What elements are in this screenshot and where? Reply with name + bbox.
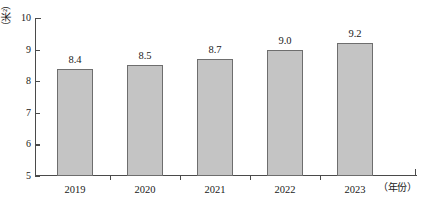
x-axis-category-label: 2023 [333,185,377,196]
y-axis-tick-label: 10 [21,13,31,23]
y-axis-tick-mark [35,144,40,145]
x-axis-category-label: 2021 [193,185,237,196]
x-axis-tick-mark [320,175,321,180]
y-axis-tick-label: 6 [26,139,31,149]
x-axis-title: （年份） [378,183,417,193]
bar-value-label: 9.0 [265,36,305,47]
x-axis-category-label: 2022 [263,185,307,196]
y-axis-tick-mark [35,50,40,51]
plot-area: 1098765 8.48.58.79.09.2 2019202020212022… [35,18,417,176]
y-axis-tick-label: 8 [26,76,31,86]
bar [57,69,93,176]
y-axis-line [35,18,36,176]
x-axis-category-label: 2020 [123,185,167,196]
y-axis-tick-label: 5 [26,171,31,181]
x-axis-tick-mark [110,175,111,180]
x-axis-tick-mark [180,175,181,180]
x-axis-category-label: 2019 [53,185,97,196]
y-axis-tick-label: 7 [26,108,31,118]
bar-chart: （米²） 1098765 8.48.58.79.09.2 20192020202… [0,0,439,201]
x-axis-end-cap [415,169,416,176]
y-axis-tick-label: 9 [26,45,31,55]
y-axis-tick-mark [35,113,40,114]
y-axis-tick-mark [35,81,40,82]
bar-value-label: 8.4 [55,55,95,66]
bar-value-label: 8.5 [125,51,165,62]
bar [267,50,303,176]
y-axis-tick-mark [35,18,40,19]
y-axis-unit-label: （米²） [0,3,20,31]
bar-value-label: 8.7 [195,45,235,56]
x-axis-tick-mark [250,175,251,180]
bar-value-label: 9.2 [335,29,375,40]
bar [337,43,373,176]
y-axis-tick-mark [35,176,40,177]
bar [197,59,233,176]
bar [127,65,163,176]
